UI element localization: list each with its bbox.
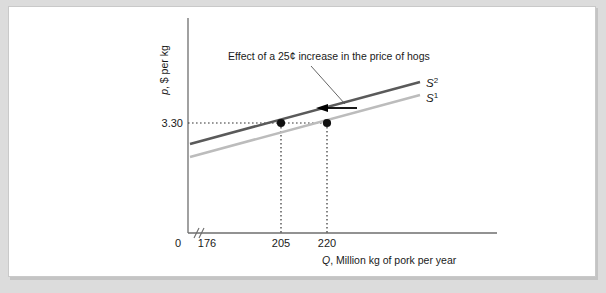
annotation-leader-line bbox=[311, 66, 345, 104]
figure-root: S2 S1 Effect of a 25¢ increase in the pr… bbox=[0, 0, 606, 293]
marker-equilibrium-on-s1 bbox=[323, 119, 331, 127]
supply-curve-chart: S2 S1 Effect of a 25¢ increase in the pr… bbox=[0, 0, 606, 293]
x-axis-title: Q, Million kg of pork per year bbox=[322, 254, 457, 266]
curve-label-s1: S1 bbox=[426, 91, 439, 104]
supply-curve-s1 bbox=[190, 95, 420, 157]
x-axis-origin-label: 0 bbox=[175, 237, 181, 249]
shift-annotation-text: Effect of a 25¢ increase in the price of… bbox=[228, 50, 430, 62]
marker-equilibrium-on-s2 bbox=[277, 119, 285, 127]
y-axis-title: p, $ per kg bbox=[158, 45, 170, 96]
x-tick-label-220: 220 bbox=[318, 237, 336, 249]
curve-label-s2: S2 bbox=[426, 76, 439, 89]
supply-curve-s2 bbox=[190, 82, 420, 144]
y-tick-label-330: 3.30 bbox=[162, 117, 183, 129]
x-tick-label-176: 176 bbox=[198, 237, 216, 249]
x-tick-label-205: 205 bbox=[272, 237, 290, 249]
